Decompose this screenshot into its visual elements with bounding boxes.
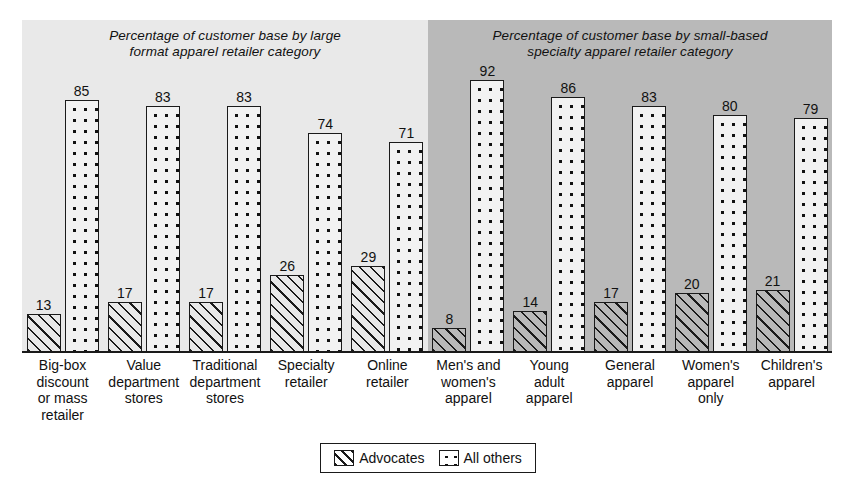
legend-item-advocates: Advocates [334,450,424,466]
plot-area-right: 8921486178320802179 [428,20,832,352]
legend-label-advocates: Advocates [359,450,424,466]
bar-group: 2080 [675,20,747,352]
bar-value-label: 86 [560,80,576,96]
category-label: Men's andwomen'sapparel [428,357,509,407]
bar-value-label: 17 [603,285,619,301]
bar-advocates: 17 [189,302,223,352]
bar-others: 85 [65,100,99,352]
bar-value-label: 8 [445,311,453,327]
bar-advocates: 21 [756,290,790,352]
axis-baseline [22,351,832,353]
category-label: Children'sapparel [751,357,832,390]
category-label: Big-boxdiscountor massretailer [22,357,103,423]
category-label: Women'sapparelonly [670,357,751,407]
bar-group: 1486 [513,20,585,352]
legend: Advocates All others [320,443,536,473]
bar-value-label: 83 [155,89,171,105]
bar-value-label: 83 [236,89,252,105]
category-label: Youngadultapparel [509,357,590,407]
category-label: Onlineretailer [347,357,428,390]
bar-value-label: 17 [198,285,214,301]
bar-others: 83 [632,106,666,352]
category-labels-left: Big-boxdiscountor massretailerValuedepar… [22,357,428,439]
bar-value-label: 85 [74,83,90,99]
hatch-swatch-icon [334,450,354,466]
category-label: Specialtyretailer [266,357,347,390]
bar-value-label: 13 [36,297,52,313]
bar-group: 892 [432,20,504,352]
bar-group: 2971 [351,20,423,352]
bar-others: 83 [227,106,261,352]
bar-value-label: 17 [117,285,133,301]
legend-item-all-others: All others [439,450,522,466]
category-labels-right: Men's andwomen'sapparelYoungadultapparel… [428,357,832,439]
bar-advocates: 29 [351,266,385,352]
bar-group: 1783 [189,20,261,352]
plot-area-left: 13851783178326742971 [22,20,428,352]
bar-value-label: 26 [279,258,295,274]
legend-label-all-others: All others [464,450,522,466]
bar-value-label: 83 [641,89,657,105]
bar-group: 1385 [27,20,99,352]
bar-group: 2179 [756,20,828,352]
bar-group: 2674 [270,20,342,352]
category-label: Traditionaldepartmentstores [184,357,265,407]
bar-value-label: 21 [765,273,781,289]
bar-others: 92 [470,80,504,352]
bar-value-label: 92 [480,63,496,79]
category-label: Valuedepartmentstores [103,357,184,407]
bar-advocates: 14 [513,311,547,352]
bar-others: 71 [389,142,423,352]
dot-swatch-icon [439,450,459,466]
bar-others: 80 [713,115,747,352]
bar-advocates: 17 [108,302,142,352]
bar-others: 86 [551,97,585,352]
bar-value-label: 79 [803,101,819,117]
bar-advocates: 20 [675,293,709,352]
bar-advocates: 17 [594,302,628,352]
bar-advocates: 26 [270,275,304,352]
bar-others: 74 [308,133,342,352]
bar-value-label: 74 [317,116,333,132]
bar-value-label: 71 [399,125,415,141]
bar-others: 83 [146,106,180,352]
bar-value-label: 20 [684,276,700,292]
bar-value-label: 29 [361,249,377,265]
bar-group: 1783 [594,20,666,352]
bar-value-label: 80 [722,98,738,114]
bar-chart: Percentage of customer base by large for… [0,0,853,498]
bar-others: 79 [794,118,828,352]
bar-value-label: 14 [522,294,538,310]
bar-group: 1783 [108,20,180,352]
bar-advocates: 13 [27,314,61,352]
category-label: Generalapparel [590,357,671,390]
bar-advocates: 8 [432,328,466,352]
